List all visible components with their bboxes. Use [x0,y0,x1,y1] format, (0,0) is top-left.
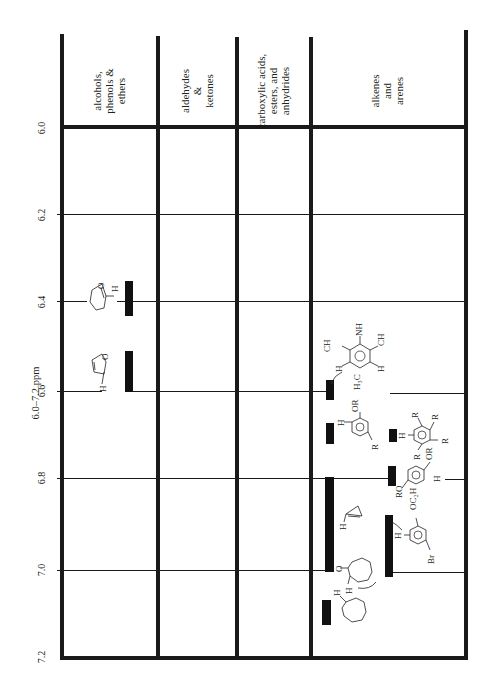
header-rule [60,125,464,129]
aminotoluene-structure: CH NH CH H H H₃C [328,330,408,396]
svg-text:OC₂H: OC₂H [408,487,418,510]
bar-cycloheptatriene [322,600,331,625]
svg-text:H: H [376,365,386,372]
svg-text:H: H [334,365,344,372]
tick-6-4: 6.4 [36,290,48,314]
tick-6-0: 6.0 [36,116,48,140]
tick-6-6: 6.6 [36,379,48,403]
divider-2 [235,37,239,660]
grid-6-4-a [57,301,87,302]
cyclopropene-structure: H [338,500,374,536]
tick-6-8: 6.8 [36,466,48,490]
svg-text:OR: OR [350,399,360,412]
svg-text:H: H [432,475,442,482]
svg-text:R: R [440,438,450,444]
svg-text:H: H [397,432,407,439]
svg-text:H: H [110,285,120,292]
bar-tetraalkylarene [389,429,397,442]
svg-text:OR: OR [424,447,434,460]
cycloheptatriene-structure: H [334,588,374,638]
bar-alkoxyarene [326,423,334,444]
svg-text:H₃C: H₃C [352,374,362,390]
svg-text:H: H [336,419,346,426]
header-alkenes: alkenes and arenes [369,51,407,131]
divider-1 [156,36,160,660]
border-right [464,30,468,660]
svg-text:R: R [430,414,440,420]
svg-text:RO: RO [394,485,404,498]
tick-7-0: 7.0 [36,558,48,582]
svg-text:CH: CH [322,339,332,352]
bar-furan [125,351,133,392]
header-carboxylic: carboxylic acids, esters, and anhydrides [255,49,293,133]
bromoethoxyarene-structure: OC₂H H Br [396,500,452,580]
svg-text:H: H [338,523,348,530]
grid-7-0-a [57,570,325,571]
bar-cyclopropene [325,477,334,572]
svg-text:O: O [96,282,106,289]
svg-text:CH: CH [376,333,386,346]
svg-text:R: R [410,412,420,418]
header-aldehydes: aldehydes & ketones [179,51,217,131]
divider-3 [309,37,313,660]
furan-structure: O H [88,350,120,396]
dihydropyran-structure: O H [88,278,120,316]
grid-6-2 [57,214,464,215]
svg-text:H: H [332,589,342,596]
svg-text:H: H [98,385,108,392]
header-alcohols: alcohols, phenols & ethers [91,51,129,131]
alkoxyarene-structure: OR H R [336,400,386,460]
grid-6-8-a [57,478,389,479]
grid-6-6-b [126,391,326,392]
bar-dihydropyran [125,281,133,316]
svg-text:R: R [370,444,380,450]
grid-6-4-b [117,301,464,302]
svg-text:H: H [393,532,403,539]
dialkoxyarene-structure: OR H RO [394,448,450,504]
svg-text:Br: Br [426,555,436,564]
svg-text:O: O [100,353,110,360]
tick-7-2: 7.2 [36,645,48,669]
tick-6-2: 6.2 [36,203,48,227]
svg-text:O: O [334,565,344,572]
svg-text:NH: NH [354,323,364,336]
bottom-rule [60,656,468,660]
